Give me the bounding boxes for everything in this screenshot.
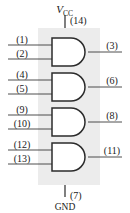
gate-2-input-2-label: (5) bbox=[16, 83, 28, 95]
gate-2: (4) (5) (6) bbox=[8, 69, 122, 101]
pinout-svg: VCC (14) (7) GND (1) (2) (3) (4) (5) (6) bbox=[0, 0, 130, 213]
gnd-pin-number: (7) bbox=[70, 190, 82, 202]
gate-1-and-shape bbox=[52, 38, 85, 66]
gate-2-and-shape bbox=[52, 73, 85, 101]
gate-3: (9) (10) (8) bbox=[8, 104, 122, 136]
gate-4-and-shape bbox=[52, 143, 85, 171]
gate-3-output-label: (8) bbox=[106, 110, 118, 122]
ic-pinout-diagram: VCC (14) (7) GND (1) (2) (3) (4) (5) (6) bbox=[0, 0, 130, 213]
gate-4-input-1-label: (12) bbox=[14, 139, 31, 151]
gate-3-input-2-label: (10) bbox=[14, 118, 31, 130]
gate-4: (12) (13) (11) bbox=[8, 139, 122, 171]
gate-2-input-1-label: (4) bbox=[16, 69, 28, 81]
gate-1-output-label: (3) bbox=[106, 40, 118, 52]
vcc-pin-number: (14) bbox=[70, 15, 87, 27]
gate-1-input-1-label: (1) bbox=[16, 34, 28, 46]
gate-3-and-shape bbox=[52, 108, 85, 136]
gate-4-output-label: (11) bbox=[104, 145, 120, 157]
gate-1: (1) (2) (3) bbox=[8, 34, 122, 66]
gate-4-input-2-label: (13) bbox=[14, 153, 31, 165]
gnd-label: GND bbox=[55, 202, 76, 212]
gate-1-input-2-label: (2) bbox=[16, 48, 28, 60]
gate-2-output-label: (6) bbox=[106, 75, 118, 87]
gate-3-input-1-label: (9) bbox=[16, 104, 28, 116]
